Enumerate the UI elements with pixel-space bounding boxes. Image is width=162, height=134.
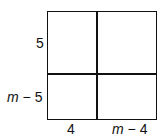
vertical-divider bbox=[96, 12, 98, 119]
variable-m: m bbox=[112, 121, 124, 134]
left-label-bottom: m − 5 bbox=[7, 90, 42, 104]
area-model-square bbox=[47, 11, 157, 120]
bottom-label-right: m − 4 bbox=[112, 122, 147, 134]
bottom-label-left: 4 bbox=[67, 122, 75, 134]
bottom-label-right-rest: − 4 bbox=[124, 121, 148, 134]
variable-m: m bbox=[7, 89, 19, 105]
left-label-top: 5 bbox=[36, 36, 44, 50]
horizontal-divider bbox=[48, 73, 156, 75]
left-label-bottom-rest: − 5 bbox=[19, 89, 43, 105]
